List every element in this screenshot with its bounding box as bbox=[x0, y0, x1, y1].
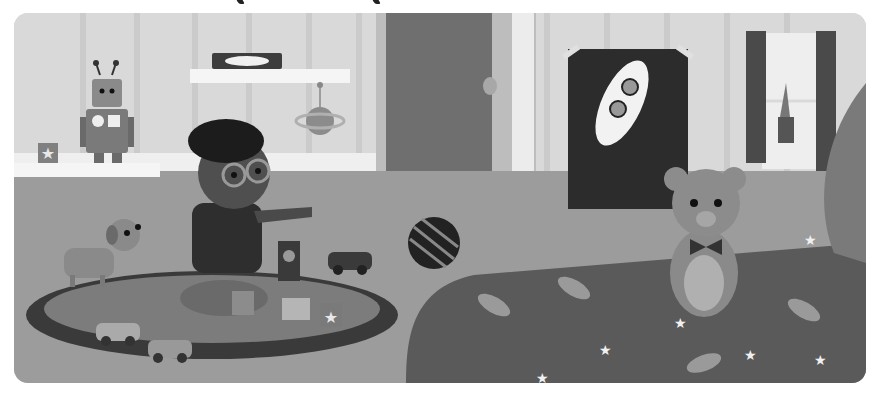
window-with-plant bbox=[746, 31, 836, 171]
svg-text:★: ★ bbox=[804, 232, 817, 248]
illustration-frame: ★ bbox=[14, 13, 866, 383]
svg-text:★: ★ bbox=[324, 308, 338, 327]
svg-text:★: ★ bbox=[536, 370, 549, 383]
bedroom-illustration: ★ bbox=[14, 13, 866, 383]
svg-text:★: ★ bbox=[744, 347, 757, 363]
left-shelf bbox=[14, 163, 160, 177]
svg-text:★: ★ bbox=[599, 342, 612, 358]
svg-text:★: ★ bbox=[814, 352, 827, 368]
door-knob bbox=[483, 77, 497, 95]
upper-shelf bbox=[190, 69, 350, 83]
cropped-title-glyph bbox=[233, 0, 245, 4]
svg-text:★: ★ bbox=[674, 315, 687, 331]
striped-ball bbox=[408, 217, 460, 269]
cropped-title-glyph bbox=[369, 0, 381, 4]
svg-text:★: ★ bbox=[41, 144, 55, 163]
